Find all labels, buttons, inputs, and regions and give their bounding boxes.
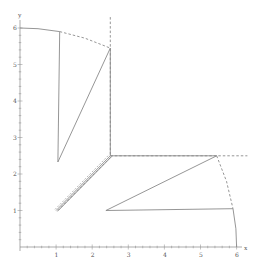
- y-tick-label: 6: [13, 24, 17, 31]
- series-right-boundary-dashed: [217, 156, 233, 209]
- y-tick-label: 2: [13, 170, 17, 177]
- y-tick-label: 5: [13, 61, 17, 68]
- x-tick-label: 1: [55, 251, 59, 258]
- x-axis-label: x: [244, 244, 248, 251]
- series-group: [20, 17, 247, 247]
- y-tick-label: 3: [13, 134, 17, 141]
- series-lower-triangle: [106, 156, 233, 211]
- y-tick-label: 4: [13, 97, 17, 104]
- axis-labels: x y: [17, 11, 248, 251]
- plot-svg: 123456123456 x y: [0, 0, 260, 268]
- axes: 123456123456: [13, 20, 242, 258]
- chart-container: 123456123456 x y: [0, 0, 260, 268]
- x-tick-label: 5: [199, 251, 203, 258]
- series-diagonal-band-solid: [56, 156, 110, 211]
- diagonal-band-line: [58, 156, 112, 211]
- y-axis-label: y: [17, 11, 22, 19]
- x-tick-label: 4: [163, 251, 167, 258]
- series-upper-boundary-solid: [20, 28, 60, 32]
- series-upper-triangle: [58, 32, 110, 162]
- diagonal-band-line: [55, 155, 109, 210]
- series-upper-boundary-dashed: [60, 32, 111, 48]
- x-tick-label: 6: [235, 251, 239, 258]
- series-right-boundary-solid: [233, 209, 237, 247]
- x-tick-label: 3: [127, 251, 131, 258]
- y-tick-label: 1: [13, 207, 17, 214]
- x-tick-label: 2: [91, 251, 95, 258]
